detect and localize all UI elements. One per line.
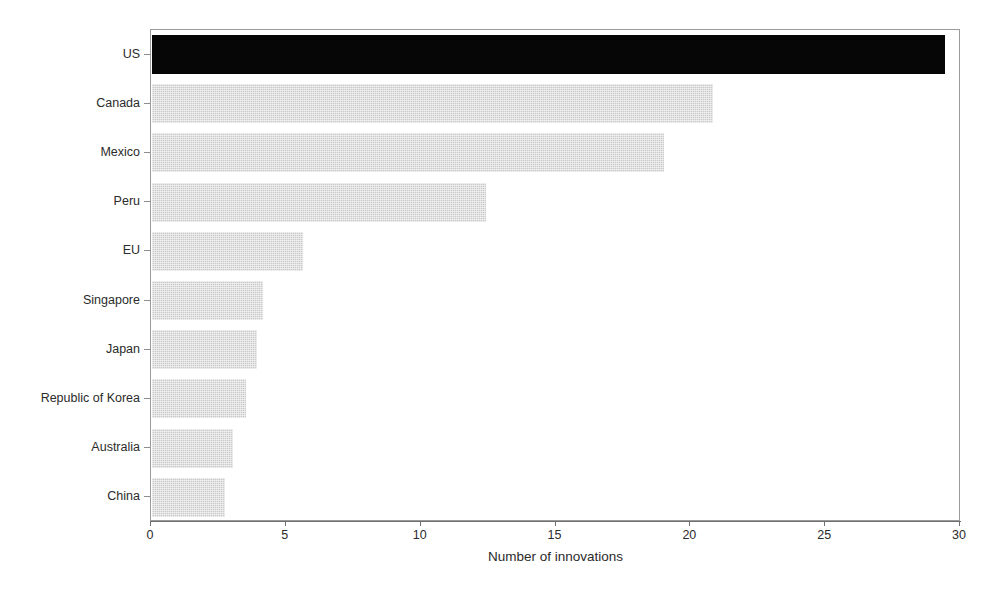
bar-row bbox=[151, 178, 959, 227]
y-axis-tick-label: Canada bbox=[96, 96, 140, 110]
bar-row bbox=[151, 473, 959, 522]
bar bbox=[152, 84, 713, 123]
x-axis-tick-mark bbox=[420, 521, 421, 526]
x-axis-tick-label: 5 bbox=[281, 528, 288, 542]
x-axis-tick-label: 30 bbox=[952, 528, 966, 542]
y-axis-tick-label: Japan bbox=[106, 342, 140, 356]
bar bbox=[152, 429, 233, 468]
bar-row bbox=[151, 30, 959, 79]
bar bbox=[152, 35, 945, 74]
y-axis-tick-label: Mexico bbox=[100, 145, 140, 159]
bar bbox=[152, 232, 303, 271]
x-axis-tick-mark bbox=[959, 521, 960, 526]
x-axis-tick-label: 0 bbox=[147, 528, 154, 542]
bar bbox=[152, 478, 225, 517]
bar-row bbox=[151, 374, 959, 423]
x-axis-ticks: 051015202530 bbox=[150, 521, 961, 545]
bar-row bbox=[151, 424, 959, 473]
x-axis-tick-mark bbox=[150, 521, 151, 526]
x-axis-tick-mark bbox=[285, 521, 286, 526]
y-axis-tick-label: US bbox=[123, 47, 140, 61]
bar-row bbox=[151, 128, 959, 177]
x-axis-tick-label: 20 bbox=[682, 528, 696, 542]
bar-row bbox=[151, 276, 959, 325]
x-axis-tick-label: 15 bbox=[548, 528, 562, 542]
bar-chart-figure: USCanadaMexicoPeruEUSingaporeJapanRepubl… bbox=[0, 0, 1002, 590]
bar-row bbox=[151, 79, 959, 128]
x-axis-tick-label: 10 bbox=[413, 528, 427, 542]
bar bbox=[152, 281, 263, 320]
y-axis-tick-label: Singapore bbox=[83, 293, 140, 307]
x-axis-tick-mark bbox=[824, 521, 825, 526]
plot-area bbox=[150, 29, 960, 521]
y-axis-tick-label: Republic of Korea bbox=[41, 391, 140, 405]
x-axis-tick-mark bbox=[555, 521, 556, 526]
y-axis-tick-label: Australia bbox=[91, 440, 140, 454]
bar bbox=[152, 183, 486, 222]
x-axis-tick-mark bbox=[689, 521, 690, 526]
x-axis-title: Number of innovations bbox=[150, 549, 961, 564]
bar-row bbox=[151, 227, 959, 276]
bar-row bbox=[151, 325, 959, 374]
y-axis-tick-label: EU bbox=[123, 243, 140, 257]
bar bbox=[152, 330, 257, 369]
bar bbox=[152, 133, 664, 172]
bar bbox=[152, 379, 246, 418]
y-axis-labels: USCanadaMexicoPeruEUSingaporeJapanRepubl… bbox=[0, 29, 142, 521]
x-axis-tick-label: 25 bbox=[817, 528, 831, 542]
y-axis-tick-label: Peru bbox=[114, 194, 140, 208]
y-axis-tick-label: China bbox=[107, 489, 140, 503]
